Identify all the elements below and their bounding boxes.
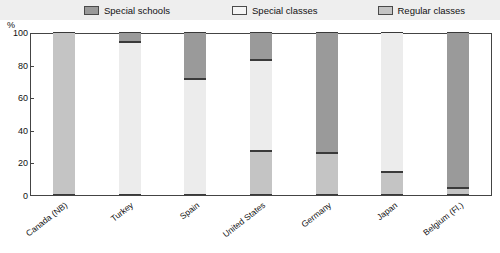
- bar-group-canada-nb[interactable]: [31, 34, 97, 195]
- x-label-cell-spain: Spain: [162, 197, 228, 253]
- x-label-cell-germany: Germany: [294, 197, 360, 253]
- stacked-bar-japan[interactable]: [381, 34, 403, 195]
- x-label-cell-japan: Japan: [360, 197, 426, 253]
- segment-regular-classes-canada-nb: [53, 32, 75, 195]
- x-tick-label-canada-nb: Canada (NB): [24, 200, 69, 238]
- segment-special-classes-japan: [381, 32, 403, 172]
- stacked-bar-canada-nb[interactable]: [53, 34, 75, 195]
- y-tick-mark-60: [30, 98, 34, 99]
- bar-group-germany[interactable]: [294, 34, 360, 195]
- stacked-bar-united-states[interactable]: [250, 34, 272, 195]
- segment-special-classes-spain: [184, 79, 206, 195]
- segment-special-schools-turkey: [119, 32, 141, 42]
- y-tick-label-20: 20: [4, 158, 28, 168]
- segment-special-schools-spain: [184, 32, 206, 79]
- segment-regular-classes-germany: [316, 153, 338, 195]
- bar-group-japan[interactable]: [360, 34, 426, 195]
- y-axis-ticks: 100806040200: [0, 33, 28, 196]
- y-tick-mark-20: [30, 163, 34, 164]
- x-label-cell-united-states: United States: [228, 197, 294, 253]
- y-tick-label-60: 60: [4, 93, 28, 103]
- x-tick-label-turkey: Turkey: [109, 200, 135, 224]
- x-tick-label-belgium-fl: Belgium (Fl.): [421, 200, 465, 238]
- x-axis-labels: Canada (NB)TurkeySpainUnited StatesGerma…: [30, 197, 492, 253]
- segment-special-classes-turkey: [119, 42, 141, 195]
- segment-regular-classes-belgium-fl: [447, 188, 469, 195]
- bar-group-spain[interactable]: [162, 34, 228, 195]
- y-tick-label-100: 100: [4, 28, 28, 38]
- segment-special-classes-united-states: [250, 60, 272, 151]
- segment-special-schools-germany: [316, 32, 338, 153]
- x-tick-label-germany: Germany: [299, 200, 333, 229]
- x-label-cell-turkey: Turkey: [96, 197, 162, 253]
- x-label-cell-canada-nb: Canada (NB): [30, 197, 96, 253]
- y-tick-mark-80: [30, 66, 34, 67]
- y-tick-mark-40: [30, 131, 34, 132]
- y-tick-label-80: 80: [4, 61, 28, 71]
- bar-group-united-states[interactable]: [228, 34, 294, 195]
- stacked-bar-germany[interactable]: [316, 34, 338, 195]
- bar-group-belgium-fl[interactable]: [425, 34, 491, 195]
- x-tick-label-united-states: United States: [221, 200, 267, 239]
- stacked-bar-belgium-fl[interactable]: [447, 34, 469, 195]
- segment-special-schools-belgium-fl: [447, 32, 469, 188]
- stacked-bar-spain[interactable]: [184, 34, 206, 195]
- x-tick-label-spain: Spain: [178, 200, 201, 221]
- x-label-cell-belgium-fl: Belgium (Fl.): [426, 197, 492, 253]
- bar-group-turkey[interactable]: [97, 34, 163, 195]
- stacked-bar-turkey[interactable]: [119, 34, 141, 195]
- chart-area: 100806040200 Canada (NB)TurkeySpainUnite…: [0, 0, 500, 253]
- y-tick-label-40: 40: [4, 126, 28, 136]
- x-tick-label-japan: Japan: [375, 200, 399, 222]
- plot-frame: [30, 33, 492, 196]
- segment-regular-classes-united-states: [250, 151, 272, 195]
- y-tick-label-0: 0: [4, 191, 28, 201]
- segment-regular-classes-japan: [381, 172, 403, 195]
- segment-special-schools-united-states: [250, 32, 272, 60]
